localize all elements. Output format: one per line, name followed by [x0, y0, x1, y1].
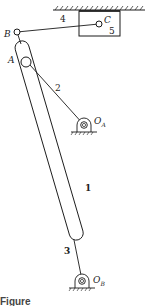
label-b: B	[4, 30, 11, 39]
label-slider-5: 5	[109, 27, 115, 36]
ground-guide	[53, 6, 145, 10]
joint-c	[96, 21, 102, 27]
label-link-4: 4	[60, 15, 66, 24]
label-o-b: OB	[93, 276, 105, 287]
label-link-2: 2	[55, 84, 61, 93]
label-c: C	[104, 16, 111, 25]
label-link-1: 1	[85, 184, 91, 193]
joint-b	[14, 29, 20, 35]
label-o-b-sub: B	[100, 280, 104, 287]
figure-caption-partial: Figure	[0, 296, 153, 306]
link-1-slotted-bar	[13, 39, 85, 242]
label-o-a-sub: A	[101, 121, 105, 128]
fixed-support-o-b	[69, 274, 95, 291]
pin-a	[21, 57, 31, 67]
label-link-3: 3	[64, 247, 70, 256]
label-o-a: OA	[94, 117, 106, 128]
label-a: A	[8, 56, 15, 65]
